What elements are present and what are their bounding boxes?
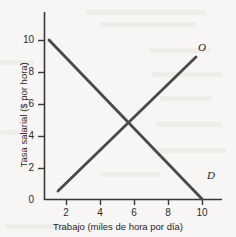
demand-curve-label: D (207, 170, 215, 181)
x-tick-label-8: 8 (156, 208, 180, 218)
plot-area (0, 0, 236, 237)
x-tick-label-10: 10 (190, 208, 214, 218)
demand-curve (49, 40, 202, 199)
supply-curve-label: O (198, 42, 206, 53)
y-axis-title: Tasa salarial ($ por hora) (19, 25, 29, 205)
economics-supply-demand-figure: 10 8 6 4 2 0 2 4 6 8 10 D O Trabajo (mil… (0, 0, 236, 237)
x-tick-label-6: 6 (122, 208, 146, 218)
y-axis-ticks (38, 41, 44, 169)
x-tick-label-4: 4 (88, 208, 112, 218)
x-tick-label-2: 2 (54, 208, 78, 218)
x-axis-title: Trabajo (miles de hora por día) (0, 222, 236, 232)
